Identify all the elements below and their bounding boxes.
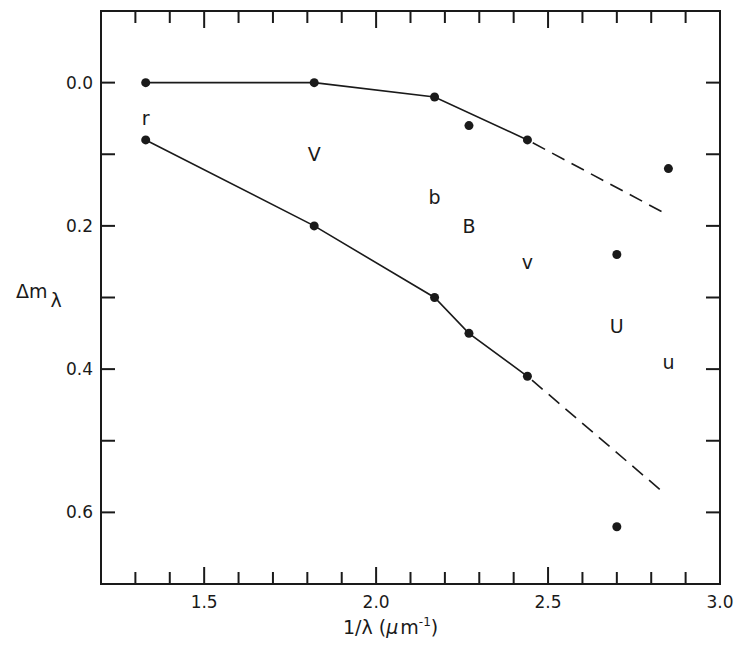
data-point: [664, 164, 673, 173]
x-tick-label: 1.5: [191, 592, 218, 612]
data-point: [141, 135, 150, 144]
axis-ticks: [101, 11, 720, 584]
data-point: [612, 522, 621, 531]
data-point: [430, 92, 439, 101]
band-label-b: b: [429, 186, 441, 208]
band-label-V: V: [308, 143, 321, 165]
y-tick-label: 0.6: [66, 502, 93, 522]
series-line-lower: [146, 140, 528, 376]
band-label-r: r: [142, 107, 150, 129]
data-point: [464, 329, 473, 338]
tick-labels: 1.52.02.53.00.00.20.40.6: [66, 73, 734, 612]
chart: 1.52.02.53.00.00.20.40.6 rVbBvUu Δmλ 1/λ…: [0, 0, 741, 649]
data-points: [141, 78, 673, 531]
band-label-u: u: [662, 351, 674, 373]
data-point: [523, 135, 532, 144]
x-axis-title: 1/λ (μm-1): [343, 615, 438, 638]
x-tick-label: 3.0: [706, 592, 733, 612]
data-point: [310, 221, 319, 230]
data-point: [612, 250, 621, 259]
band-label-U: U: [610, 315, 624, 337]
point-annotations: rVbBvUu: [142, 107, 675, 373]
extrapolation-dashed-line: [527, 140, 661, 212]
y-tick-label: 0.2: [66, 216, 93, 236]
data-point: [464, 121, 473, 130]
plot-frame: [101, 11, 720, 584]
y-axis-title: Δmλ: [16, 280, 62, 311]
series-line-upper: [146, 83, 528, 140]
x-tick-label: 2.0: [363, 592, 390, 612]
data-point: [310, 78, 319, 87]
extrapolation-dashed-line: [527, 376, 661, 491]
data-point: [430, 293, 439, 302]
band-label-B: B: [462, 215, 475, 237]
band-label-v: v: [522, 251, 533, 273]
series-lines: [146, 83, 662, 491]
y-tick-label: 0.4: [66, 359, 93, 379]
y-tick-label: 0.0: [66, 73, 93, 93]
data-point: [141, 78, 150, 87]
x-tick-label: 2.5: [535, 592, 562, 612]
data-point: [523, 372, 532, 381]
